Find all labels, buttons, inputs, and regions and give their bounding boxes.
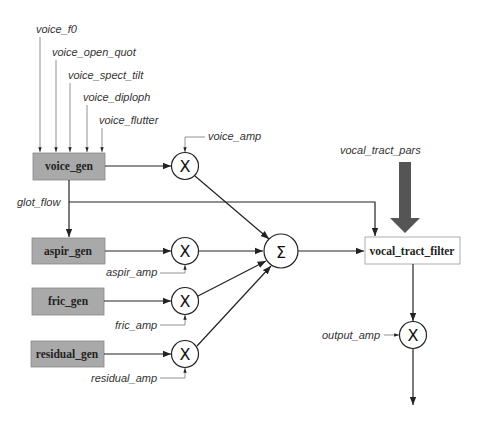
multiplier-output: X	[400, 322, 427, 349]
voice-amp-arrow	[185, 137, 205, 152]
input-label-voice-flutter: voice_flutter	[99, 114, 160, 126]
fric-amp-label: fric_amp	[115, 319, 157, 331]
fric-gen-block: fric_gen	[32, 288, 104, 315]
mult-voice-to-sum-arrow	[195, 176, 269, 239]
residual-amp-label: residual_amp	[91, 372, 157, 384]
aspir-amp-label: aspir_amp	[106, 266, 157, 278]
glot-flow-label: glot_flow	[17, 196, 61, 208]
multiplier-aspir: X	[172, 238, 199, 265]
residual-gen-label: residual_gen	[36, 348, 99, 361]
multiplier-residual: X	[172, 341, 199, 368]
voice-gen-label: voice_gen	[45, 160, 94, 173]
input-label-voice-f0: voice_f0	[36, 23, 78, 35]
multiply-icon: X	[180, 242, 191, 261]
sigma-icon: Σ	[276, 243, 286, 262]
vocal-tract-pars-arrow	[390, 162, 420, 233]
summation-node: Σ	[264, 234, 298, 268]
multiply-icon: X	[180, 157, 191, 176]
glot-flow-to-filter-arrow	[69, 202, 375, 236]
synthesis-diagram: voice_f0 voice_open_quot voice_spect_til…	[0, 0, 478, 422]
voice-amp-label: voice_amp	[208, 130, 261, 142]
multiply-icon: X	[180, 292, 191, 311]
input-label-voice-diploph: voice_diploph	[83, 91, 150, 103]
aspir-amp-arrow	[160, 265, 185, 273]
residual-gen-block: residual_gen	[31, 341, 104, 367]
voice-gen-block: voice_gen	[33, 153, 105, 180]
input-label-voice-spect-tilt: voice_spect_tilt	[68, 69, 144, 81]
multiplier-voice: X	[172, 153, 199, 180]
residual-amp-arrow	[160, 368, 185, 378]
multiplier-fric: X	[172, 288, 199, 315]
aspir-gen-block: aspir_gen	[32, 238, 105, 264]
output-amp-label: output_amp	[322, 329, 380, 341]
vocal-tract-filter-label: vocal_tract_filter	[370, 245, 455, 257]
fric-amp-arrow	[160, 315, 185, 325]
multiply-icon: X	[408, 326, 419, 345]
multiply-icon: X	[180, 345, 191, 364]
input-label-voice-open-quot: voice_open_quot	[52, 46, 137, 58]
fric-gen-label: fric_gen	[48, 295, 89, 308]
aspir-gen-label: aspir_gen	[44, 245, 93, 258]
vocal-tract-filter-block: vocal_tract_filter	[365, 237, 460, 264]
mult-fric-to-sum-arrow	[198, 261, 266, 296]
vocal-tract-pars-label: vocal_tract_pars	[340, 144, 421, 156]
